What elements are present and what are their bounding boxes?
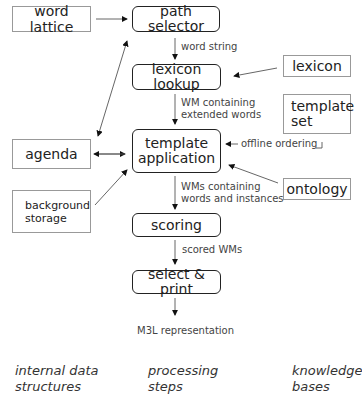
legend-data-structures-line2: structures [15, 379, 99, 395]
word-string-label: word string [181, 41, 237, 52]
agenda-box: agenda [12, 139, 91, 169]
background-storage-box: background storage [12, 190, 91, 233]
background-storage-label-line2: storage [25, 212, 90, 225]
legend-knowledge-bases-line1: knowledge [292, 363, 362, 379]
lexicon-box: lexicon [283, 55, 351, 77]
legend-data-structures-line1: internal data [15, 363, 99, 379]
wm-extended-label-line2: extended words [181, 109, 261, 120]
lexicon-label: lexicon [292, 58, 342, 74]
offline-ordering-label: offline ordering [241, 138, 317, 149]
legend-data-structures: internal data structures [15, 363, 99, 395]
scoring-label: scoring [151, 218, 202, 233]
agenda-label: agenda [25, 146, 77, 162]
word-lattice-label: word lattice [13, 3, 90, 35]
wm-extended-label-line1: WM containing [181, 97, 255, 108]
template-application-box: template application [132, 129, 221, 173]
select-print-box: select & print [132, 270, 221, 294]
word-lattice-box: word lattice [12, 6, 91, 32]
ontology-label: ontology [286, 181, 347, 197]
wms-instances-label-line1: WMs containing [181, 181, 261, 192]
legend-knowledge-bases: knowledge bases [292, 363, 362, 395]
template-application-label-line1: template [138, 136, 215, 151]
legend-processing-steps-line2: steps [148, 379, 218, 395]
lexicon-lookup-box: lexicon lookup [132, 64, 221, 90]
output-label: M3L representation [137, 325, 234, 336]
template-set-label-line2: set [291, 114, 354, 129]
scored-wms-label: scored WMs [182, 244, 242, 255]
template-application-label-line2: application [138, 151, 215, 166]
template-set-label-line1: template [291, 99, 354, 114]
legend-processing-steps: processing steps [148, 363, 218, 395]
template-set-box: template set [283, 94, 351, 134]
wms-instances-label-line2: words and instances [181, 193, 284, 204]
lexicon-lookup-label: lexicon lookup [133, 62, 220, 92]
legend-processing-steps-line1: processing [148, 363, 218, 379]
path-selector-label: path selector [133, 4, 219, 34]
legend-knowledge-bases-line2: bases [292, 379, 362, 395]
background-storage-label-line1: background [25, 199, 90, 212]
ontology-box: ontology [283, 178, 351, 200]
scoring-box: scoring [132, 213, 221, 237]
path-selector-box: path selector [132, 6, 220, 32]
select-print-label: select & print [133, 267, 220, 297]
